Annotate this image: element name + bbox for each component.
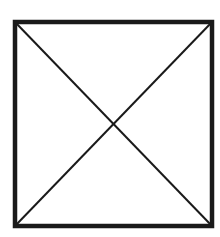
square-with-diagonals-diagram (0, 0, 220, 237)
